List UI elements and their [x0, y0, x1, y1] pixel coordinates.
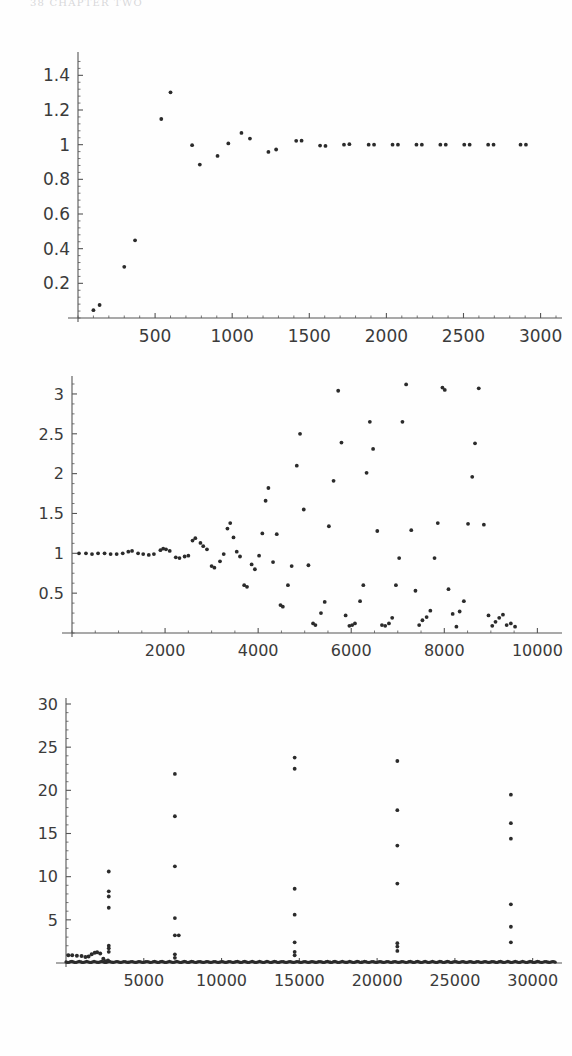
- data-point: [173, 864, 177, 868]
- data-point: [509, 821, 513, 825]
- data-point: [173, 772, 177, 776]
- x-axis-tick-label: 3000: [519, 326, 562, 346]
- data-point: [509, 837, 513, 841]
- data-point: [466, 522, 470, 526]
- data-point: [404, 382, 408, 386]
- data-point: [250, 563, 254, 567]
- data-point: [107, 895, 111, 899]
- data-point: [96, 551, 100, 555]
- data-point: [177, 933, 181, 937]
- data-point: [106, 958, 110, 962]
- y-axis-tick-label: 25: [38, 738, 58, 757]
- data-point: [451, 612, 455, 616]
- data-point: [367, 143, 371, 147]
- x-axis-tick-label: 2000: [365, 326, 408, 346]
- data-point: [295, 464, 299, 468]
- y-axis-tick-label: 3: [54, 385, 64, 404]
- data-point: [409, 528, 413, 532]
- data-point: [395, 844, 399, 848]
- data-point: [240, 131, 244, 135]
- data-point: [173, 916, 177, 920]
- data-point: [115, 552, 119, 556]
- x-axis-tick-label: 10000: [512, 641, 563, 660]
- data-point: [173, 814, 177, 818]
- x-axis-tick-label: 6000: [331, 641, 372, 660]
- x-axis-tick-label: 15000: [274, 971, 325, 990]
- data-point: [447, 587, 451, 591]
- y-axis-tick-label: 15: [38, 824, 58, 843]
- data-point: [260, 531, 264, 535]
- data-point: [383, 624, 387, 628]
- data-point: [487, 614, 491, 618]
- data-point: [293, 767, 297, 771]
- data-point: [428, 609, 432, 613]
- y-axis-tick-label: 0.8: [43, 169, 70, 189]
- x-axis-tick-label: 8000: [424, 641, 465, 660]
- data-point: [509, 902, 513, 906]
- data-point: [92, 308, 96, 312]
- data-point: [368, 420, 372, 424]
- data-point: [462, 143, 466, 147]
- data-point: [395, 759, 399, 763]
- data-point: [390, 616, 394, 620]
- data-point: [226, 527, 230, 531]
- data-point: [107, 950, 111, 954]
- data-point: [80, 954, 84, 958]
- data-point: [107, 906, 111, 910]
- data-point: [130, 549, 134, 553]
- data-point: [468, 143, 472, 147]
- y-axis-tick-label: 20: [38, 781, 58, 800]
- data-point: [228, 521, 232, 525]
- data-point: [501, 613, 505, 617]
- data-point: [90, 552, 94, 556]
- x-axis-tick-label: 4000: [238, 641, 279, 660]
- data-point: [136, 551, 140, 555]
- data-point: [365, 471, 369, 475]
- data-point: [490, 624, 494, 628]
- x-axis-tick-label: 2500: [442, 326, 485, 346]
- data-point: [169, 90, 173, 94]
- data-point: [183, 555, 187, 559]
- data-point: [267, 150, 271, 154]
- data-point: [353, 622, 357, 626]
- data-point: [324, 144, 328, 148]
- data-point: [178, 556, 182, 560]
- data-point: [77, 551, 81, 555]
- y-axis-tick-label: 1: [54, 544, 64, 563]
- data-point: [186, 554, 190, 558]
- y-axis-tick-label: 1.2: [43, 100, 70, 120]
- y-axis-tick-label: 1.4: [43, 65, 70, 85]
- data-point: [274, 148, 278, 152]
- data-point: [436, 521, 440, 525]
- data-point: [395, 808, 399, 812]
- data-point: [387, 622, 391, 626]
- data-point: [302, 508, 306, 512]
- y-axis-tick-label: 1: [59, 135, 70, 155]
- data-point: [443, 388, 447, 392]
- data-point: [513, 625, 517, 629]
- data-point: [147, 553, 151, 557]
- scatter-plot-bottom: 5000100001500020000250003000051015202530: [0, 688, 572, 1018]
- data-point: [281, 605, 285, 609]
- data-point: [344, 614, 348, 618]
- data-point: [213, 566, 217, 570]
- data-point: [122, 265, 126, 269]
- data-point: [235, 550, 239, 554]
- x-axis-tick-label: 30000: [507, 971, 558, 990]
- data-point: [293, 887, 297, 891]
- data-point: [164, 547, 168, 551]
- scanned-page: 38 CHAPTER TWO 500100015002000250030000.…: [0, 0, 572, 1056]
- x-axis-tick-label: 5000: [123, 971, 164, 990]
- data-point: [218, 559, 222, 563]
- data-point: [394, 583, 398, 587]
- data-point: [371, 447, 375, 451]
- x-axis-tick-label: 25000: [429, 971, 480, 990]
- data-point: [98, 952, 102, 956]
- x-axis-tick-label: 10000: [196, 971, 247, 990]
- data-point: [319, 611, 323, 615]
- data-point: [190, 143, 194, 147]
- data-point: [509, 793, 513, 797]
- data-point: [107, 870, 111, 874]
- data-point: [290, 564, 294, 568]
- data-point: [174, 555, 178, 559]
